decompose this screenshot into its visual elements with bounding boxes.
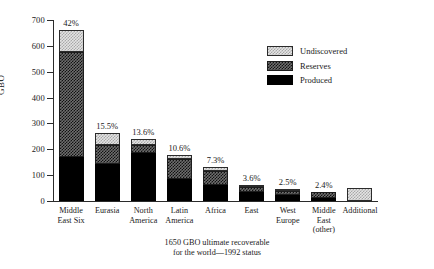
y-axis-title: GBO — [0, 74, 6, 95]
bar-segment-produced[interactable] — [311, 198, 336, 201]
y-axis-tick-label-wrap: 700 — [0, 16, 45, 25]
bar-group[interactable] — [239, 185, 264, 201]
legend-swatch-produced-icon — [267, 75, 293, 85]
y-axis-tick-label: 100 — [0, 171, 45, 180]
bar-segment-produced[interactable] — [167, 179, 192, 201]
bar-group[interactable] — [131, 139, 156, 201]
legend-swatch-reserves-icon — [267, 61, 293, 71]
bar-value-label: 2.4% — [298, 181, 350, 190]
y-axis-tick-label: 200 — [0, 145, 45, 154]
y-axis-tick-label-wrap: 200 — [0, 145, 45, 154]
bar-segment-produced[interactable] — [275, 195, 300, 201]
y-axis-tick-label: 500 — [0, 68, 45, 77]
legend: Undiscovered Reserves Produced — [267, 46, 347, 90]
y-axis-tick-label-wrap: 0 — [0, 197, 45, 206]
bar-segment-produced[interactable] — [95, 164, 120, 201]
y-axis-tick-label-wrap: 100 — [0, 171, 45, 180]
y-axis-tick-label-wrap: 500 — [0, 68, 45, 77]
bar-value-label: 42% — [45, 19, 97, 28]
bar-group[interactable] — [59, 30, 84, 201]
y-axis-tick-label: 600 — [0, 42, 45, 51]
legend-swatch-undiscovered-icon — [267, 46, 293, 56]
legend-label-undiscovered: Undiscovered — [300, 46, 347, 56]
legend-label-produced: Produced — [300, 75, 332, 85]
bar-segment-produced[interactable] — [59, 157, 84, 201]
bar-group[interactable] — [275, 189, 300, 201]
legend-label-reserves: Reserves — [300, 61, 331, 71]
bar-segment-undiscovered[interactable] — [95, 133, 120, 145]
bar-segment-undiscovered[interactable] — [347, 188, 372, 201]
bar-value-label: 13.6% — [117, 128, 169, 137]
legend-item-produced: Produced — [267, 75, 347, 85]
y-axis-tick-label: 0 — [0, 197, 45, 206]
x-axis-line — [53, 201, 378, 202]
bar-segment-reserves[interactable] — [167, 159, 192, 179]
y-axis-tick-label: 400 — [0, 94, 45, 103]
bar-group[interactable] — [311, 192, 336, 201]
bar-group[interactable] — [167, 155, 192, 201]
figure-caption: 1650 GBO ultimate recoverable for the wo… — [0, 238, 434, 258]
bar-value-label: 7.3% — [190, 156, 242, 165]
bar-group[interactable] — [95, 133, 120, 201]
bar-value-label: 10.6% — [153, 144, 205, 153]
bar-segment-undiscovered[interactable] — [59, 30, 84, 52]
bar-segment-produced[interactable] — [131, 153, 156, 201]
bar-group[interactable] — [347, 188, 372, 201]
y-axis-tick-label: 700 — [0, 16, 45, 25]
legend-item-undiscovered: Undiscovered — [267, 46, 347, 56]
y-axis-tick-label: 300 — [0, 119, 45, 128]
y-axis-tick-label-wrap: 300 — [0, 119, 45, 128]
legend-item-reserves: Reserves — [267, 61, 347, 71]
bar-segment-produced[interactable] — [203, 185, 228, 201]
bar-chart: GBO 0100200300400500600700 Middle East S… — [0, 0, 434, 269]
y-axis-tick — [47, 201, 53, 202]
bar-segment-reserves[interactable] — [131, 145, 156, 153]
bar-segment-reserves[interactable] — [203, 171, 228, 185]
bar-segment-reserves[interactable] — [95, 145, 120, 164]
y-axis-tick-label-wrap: 600 — [0, 42, 45, 51]
bar-group[interactable] — [203, 167, 228, 201]
bar-segment-produced[interactable] — [239, 192, 264, 201]
y-axis-tick-label-wrap: 400 — [0, 94, 45, 103]
x-axis-category-label: Additional — [334, 206, 386, 216]
bar-segment-reserves[interactable] — [59, 52, 84, 157]
